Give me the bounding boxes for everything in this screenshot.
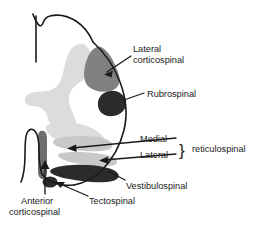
label-reticulospinal: reticulospinal: [192, 144, 246, 154]
label-lateral-corticospinal-line2: corticospinal: [133, 55, 184, 65]
diagram-canvas: Lateral corticospinal Rubrospinal Medial…: [0, 0, 256, 230]
label-rubrospinal: Rubrospinal: [147, 89, 196, 99]
vestibulospinal-tract: [50, 165, 119, 182]
rubrospinal-tract: [98, 91, 126, 116]
label-anterior-corticospinal-line2: corticospinal: [9, 207, 60, 217]
label-lateral: Lateral: [140, 150, 168, 160]
leader-rubrospinal: [124, 93, 144, 100]
label-medial: Medial: [140, 134, 167, 144]
label-vestibulospinal: Vestibulospinal: [126, 181, 187, 191]
label-lateral-corticospinal-line1: Lateral: [133, 44, 161, 54]
dorsal-outline: [33, 14, 93, 42]
label-brace: }: [179, 141, 185, 160]
label-tectospinal: Tectospinal: [89, 196, 135, 206]
spinal-cord-tract-diagram: Lateral corticospinal Rubrospinal Medial…: [0, 0, 256, 230]
gray-matter: [25, 44, 92, 135]
label-anterior-corticospinal-line1: Anterior: [21, 196, 53, 206]
